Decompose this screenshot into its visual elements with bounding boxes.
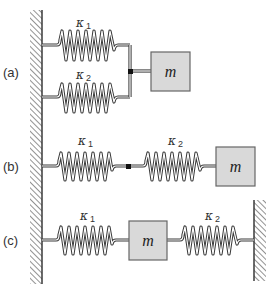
right-wall	[254, 200, 266, 281]
mass-a-label: m	[165, 63, 177, 80]
mass-c-label: m	[142, 232, 154, 249]
config-b-label: (b)	[3, 159, 19, 174]
spring-c-k1-label: κ1	[79, 209, 95, 224]
spring-a-k2	[42, 84, 130, 112]
config-a-label: (a)	[3, 65, 19, 80]
spring-b-k2	[128, 153, 216, 180]
config-c-label: (c)	[3, 233, 18, 248]
spring-b-k1	[42, 153, 128, 180]
spring-a-k1-label: κ1	[75, 16, 91, 31]
spring-c-k1	[42, 227, 129, 254]
mass-b-label: m	[230, 158, 242, 175]
spring-a-k1	[42, 31, 130, 60]
left-wall	[30, 10, 42, 284]
spring-c-k2-label: κ2	[204, 209, 220, 224]
junction-b	[126, 164, 131, 169]
spring-b-k1-label: κ1	[77, 134, 93, 149]
spring-a-k2-label: κ2	[75, 68, 91, 83]
spring-b-k2-label: κ2	[167, 134, 183, 149]
spring-mass-diagram: (a) κ1 κ2 m (b)	[0, 0, 275, 293]
junction-a	[128, 69, 133, 74]
spring-c-k2	[167, 227, 254, 254]
